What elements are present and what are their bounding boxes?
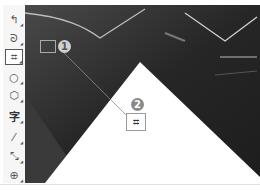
photo	[25, 5, 260, 183]
lasso-tool-button[interactable]: ᘐ◢	[5, 30, 23, 46]
callout-1-highlight	[40, 40, 56, 53]
ellipse-icon: ○	[9, 71, 19, 84]
crop-tool-button[interactable]: ⌗◢	[5, 49, 23, 65]
line-move-icon: ↰	[9, 13, 18, 26]
sticker-tool-button[interactable]: ⊕◢	[5, 167, 23, 183]
text-icon: 字	[9, 108, 20, 124]
polygon-icon: ⬡	[9, 89, 19, 102]
lasso-icon: ᘐ	[10, 32, 18, 45]
callout-badge-1: 1	[58, 40, 71, 53]
tool-palette: ↰◢ ᘐ◢ ⌗◢ ○◢ ⬡◢ 字◢ ⁄◢ ⤡◢ ⊕◢	[3, 5, 26, 183]
sticker-icon: ⊕	[9, 169, 18, 182]
crop-icon: ⌗	[11, 51, 17, 64]
line-tool-button[interactable]: ⁄◢	[5, 129, 23, 145]
crop-cursor-callout: ⌗	[126, 113, 146, 131]
text-tool-button[interactable]: 字◢	[5, 108, 23, 124]
crop-cursor-icon: ⌗	[133, 116, 139, 129]
arrow-icon: ⤡	[10, 150, 19, 163]
line-icon: ⁄	[13, 131, 15, 144]
callout-badge-2: 2	[131, 98, 144, 111]
line-move-tool-button[interactable]: ↰◢	[5, 11, 23, 27]
divider	[0, 184, 260, 185]
image-canvas[interactable]	[25, 5, 260, 183]
arrow-tool-button[interactable]: ⤡◢	[5, 148, 23, 164]
ellipse-tool-button[interactable]: ○◢	[5, 69, 23, 85]
polygon-tool-button[interactable]: ⬡◢	[5, 87, 23, 103]
